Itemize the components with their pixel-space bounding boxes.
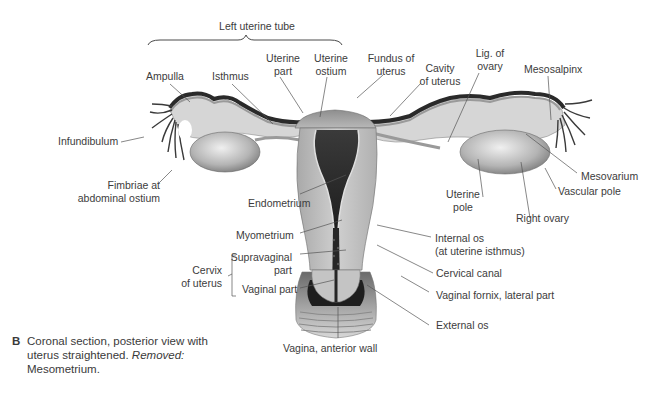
label-myometrium: Myometrium <box>236 229 294 242</box>
vagina <box>296 270 377 338</box>
label-infundibulum: Infundibulum <box>58 135 118 148</box>
label-cervix-of-uterus: Cervix of uterus <box>160 264 222 289</box>
label-cavity-of-uterus: Cavity of uterus <box>415 62 465 87</box>
anatomy-figure: Left uterine tube Ampulla Isthmus Uterin… <box>0 0 671 395</box>
label-supravaginal-part: Supravaginal part <box>230 251 292 276</box>
figure-letter: B <box>12 334 20 348</box>
label-external-os: External os <box>436 319 489 332</box>
label-vaginal-part: Vaginal part <box>242 283 297 296</box>
label-mesosalpinx: Mesosalpinx <box>524 63 582 76</box>
label-internal-os: Internal os (at uterine isthmus) <box>435 232 525 257</box>
label-uterine-pole: Uterine pole <box>443 188 483 213</box>
label-right-ovary: Right ovary <box>516 212 569 225</box>
label-left-uterine-tube: Left uterine tube <box>207 20 307 33</box>
left-uterine-tube <box>150 94 305 172</box>
label-uterine-ostium: Uterine ostium <box>306 52 356 77</box>
right-uterine-tube <box>368 93 592 174</box>
label-fimbriae: Fimbriae at abdominal ostium <box>60 179 160 204</box>
label-mesovarium: Mesovarium <box>581 170 638 183</box>
label-ampulla: Ampulla <box>146 70 184 83</box>
label-cervical-canal: Cervical canal <box>436 267 502 280</box>
label-lig-of-ovary: Lig. of ovary <box>470 47 510 72</box>
label-uterine-part: Uterine part <box>258 52 308 77</box>
label-vaginal-fornix: Vaginal fornix, lateral part <box>436 289 554 302</box>
label-endometrium: Endometrium <box>248 197 310 210</box>
caption-text: Coronal section, posterior view with ute… <box>27 334 217 376</box>
label-vascular-pole: Vascular pole <box>558 185 621 198</box>
label-fundus-of-uterus: Fundus of uterus <box>361 52 421 77</box>
label-isthmus: Isthmus <box>212 70 249 83</box>
brace <box>148 35 342 45</box>
label-vagina-anterior-wall: Vagina, anterior wall <box>283 342 377 355</box>
